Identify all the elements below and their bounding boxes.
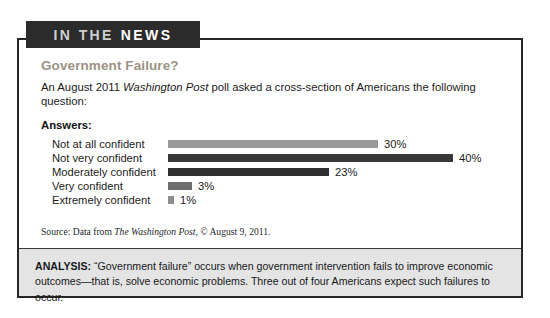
bar-fill bbox=[168, 182, 192, 190]
table-row: Moderately confident 23% bbox=[52, 165, 499, 179]
bar-value-label: 40% bbox=[459, 152, 481, 164]
bar-category-label: Moderately confident bbox=[52, 166, 168, 178]
table-row: Extremely confident 1% bbox=[52, 193, 499, 207]
answers-heading: Answers: bbox=[41, 119, 499, 131]
question-source-italic: Washington Post bbox=[123, 81, 208, 93]
bar-fill bbox=[168, 154, 453, 162]
bar-value-label: 30% bbox=[384, 138, 406, 150]
bar-fill bbox=[168, 140, 378, 148]
table-row: Not very confident 40% bbox=[52, 151, 499, 165]
analysis-label: ANALYSIS: bbox=[35, 260, 91, 272]
bar-track: 3% bbox=[168, 179, 499, 193]
bar-track: 30% bbox=[168, 137, 499, 151]
source-suffix: , © August 9, 2011. bbox=[195, 226, 270, 237]
page-title: Government Failure? bbox=[41, 58, 499, 73]
poll-question: An August 2011 Washington Post poll aske… bbox=[41, 80, 499, 108]
in-the-news-banner: IN THE NEWS bbox=[26, 21, 200, 48]
poll-bar-chart: Not at all confident 30% Not very confid… bbox=[52, 137, 499, 207]
bar-value-label: 3% bbox=[198, 180, 214, 192]
bar-category-label: Not at all confident bbox=[52, 138, 168, 150]
source-note: Source: Data from The Washington Post, ©… bbox=[41, 226, 499, 237]
table-row: Not at all confident 30% bbox=[52, 137, 499, 151]
bar-category-label: Not very confident bbox=[52, 152, 168, 164]
bar-fill bbox=[168, 168, 329, 176]
bar-category-label: Very confident bbox=[52, 180, 168, 192]
banner-text-right: NEWS bbox=[121, 27, 173, 43]
question-part-1: An August 2011 bbox=[41, 81, 123, 93]
analysis-paragraph: ANALYSIS: “Government failure” occurs wh… bbox=[35, 259, 505, 305]
bar-fill bbox=[168, 196, 174, 204]
bar-value-label: 1% bbox=[180, 194, 196, 206]
news-box-frame: Government Failure? An August 2011 Washi… bbox=[17, 38, 523, 298]
bar-category-label: Extremely confident bbox=[52, 194, 168, 206]
source-prefix: Source: Data from bbox=[41, 226, 114, 237]
source-publication: The Washington Post bbox=[114, 226, 195, 237]
bar-track: 23% bbox=[168, 165, 499, 179]
analysis-body: “Government failure” occurs when governm… bbox=[35, 260, 493, 303]
bar-track: 40% bbox=[168, 151, 499, 165]
banner-text-left: IN THE bbox=[54, 27, 114, 43]
bar-track: 1% bbox=[168, 193, 499, 207]
table-row: Very confident 3% bbox=[52, 179, 499, 193]
bar-value-label: 23% bbox=[335, 166, 357, 178]
analysis-callout: ANALYSIS: “Government failure” occurs wh… bbox=[19, 248, 521, 296]
